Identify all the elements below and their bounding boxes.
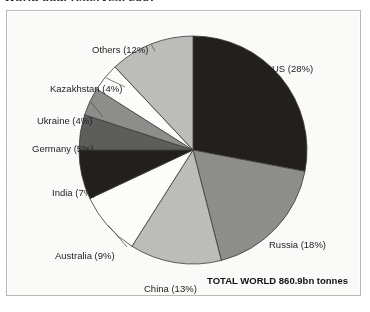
- cropped-page-heading: World coal reserves, 2007: [4, 0, 156, 1]
- total-world-annotation: TOTAL WORLD 860.9bn tonnes: [207, 275, 348, 286]
- pie-label-china: China (13%): [144, 283, 197, 294]
- pie-label-ukraine: Ukraine (4%): [37, 115, 92, 126]
- pie-label-others: Others (12%): [92, 44, 149, 55]
- pie-label-india: India (7%): [52, 187, 95, 198]
- pie-label-us: US (28%): [272, 63, 313, 74]
- chart-frame: US (28%)Russia (18%)China (13%)Australia…: [6, 10, 361, 296]
- pie-label-germany: Germany (5%): [32, 143, 94, 154]
- pie-chart-plot-area: US (28%)Russia (18%)China (13%)Australia…: [7, 11, 360, 295]
- pie-slice-us[interactable]: [193, 36, 307, 171]
- pie-label-russia: Russia (18%): [269, 239, 326, 250]
- pie-label-australia: Australia (9%): [55, 250, 115, 261]
- pie-label-kazakhstan: Kazakhstan (4%): [50, 83, 122, 94]
